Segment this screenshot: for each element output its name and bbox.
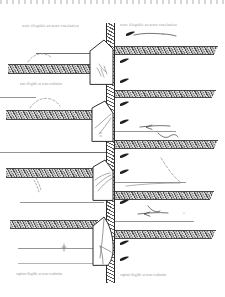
- reference-rule-6: [18, 248, 104, 249]
- reference-rule-9: [114, 182, 186, 183]
- fracture-tail-right: [126, 183, 180, 186]
- reference-rule-5: [20, 202, 104, 203]
- reference-rule-1: [36, 53, 108, 54]
- drawing-sheet: note illegible at scan resolution note i…: [0, 0, 225, 297]
- strata-band-right-2: [114, 90, 218, 98]
- leader-line-3: [158, 133, 178, 137]
- vertical-wall-column: [106, 23, 115, 283]
- caption-bottom-left: caption illegible at scan resolution: [16, 272, 90, 276]
- flow-marker-6: [120, 154, 129, 158]
- dashed-diagonal-right: [161, 158, 180, 182]
- flow-marker-10: [120, 257, 129, 261]
- flow-marker-3: [120, 79, 129, 83]
- scan-speck: [183, 212, 184, 213]
- caption-bottom-right: caption illegible at scan resolution: [120, 273, 204, 277]
- leader-line-4: [138, 212, 168, 216]
- scan-edge-noise: [0, 0, 225, 4]
- annotation-top-left: note illegible at scan resolution: [22, 24, 94, 28]
- strata-band-right-1: [114, 46, 220, 55]
- flow-marker-5: [120, 120, 129, 124]
- flow-marker-9: [120, 241, 129, 245]
- flow-marker-4: [120, 102, 129, 106]
- leader-line-5: [148, 206, 160, 212]
- strata-band-right-4: [114, 191, 216, 200]
- strata-band-left-1: [8, 64, 100, 74]
- annotation-top-right: note illegible at scan resolution: [120, 23, 206, 27]
- strata-band-left-2: [6, 110, 102, 120]
- leader-line-2: [140, 125, 170, 129]
- strata-band-left-3: [6, 168, 102, 178]
- flow-marker-8: [120, 200, 129, 204]
- reference-rule-8: [114, 131, 176, 132]
- strata-band-right-5: [114, 230, 218, 239]
- wedge-block-2-mark: [100, 133, 102, 136]
- reference-rule-7: [18, 263, 102, 264]
- flow-marker-7: [120, 170, 129, 174]
- reference-rule-10: [114, 221, 194, 222]
- annotation-left-mid: note illegible at scan resolution: [20, 82, 80, 86]
- reference-rule-2: [0, 97, 36, 98]
- strata-band-right-3: [114, 140, 220, 149]
- reference-rule-3: [0, 152, 40, 153]
- flow-marker-1: [126, 32, 135, 36]
- flow-marker-2: [120, 59, 129, 63]
- reference-rule-4: [40, 152, 106, 153]
- dashed-fracture-left: [34, 178, 41, 192]
- leader-line-1: [134, 33, 176, 36]
- dashed-arc-2: [30, 98, 60, 108]
- dashed-arc-1: [28, 54, 52, 62]
- strata-band-left-4: [10, 220, 100, 229]
